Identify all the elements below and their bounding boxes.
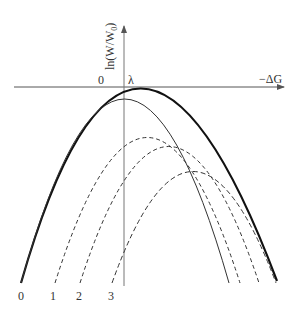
curve-1 — [55, 138, 240, 284]
curve-2 — [80, 147, 259, 284]
y-axis-label-subscript: 0 — [110, 27, 119, 31]
lambda-label: λ — [128, 74, 134, 86]
y-axis-label-close: ) — [103, 23, 117, 27]
origin-label: 0 — [98, 74, 104, 86]
y-axis-label-text: ln(W/W — [103, 31, 117, 70]
x-axis-label: −ΔG — [259, 73, 282, 85]
curve-label-0: 0 — [18, 290, 24, 302]
curve-envelope — [21, 88, 277, 283]
curve-3 — [112, 172, 276, 284]
diagram-canvas — [0, 0, 296, 312]
curve-label-2: 2 — [76, 290, 82, 302]
curve-label-1: 1 — [50, 290, 56, 302]
y-axis-label: ln(W/W0) — [104, 23, 119, 70]
marcus-diagram: ln(W/W0) −ΔG 0 λ 0 1 2 3 — [0, 0, 296, 312]
curve-label-3: 3 — [108, 290, 114, 302]
